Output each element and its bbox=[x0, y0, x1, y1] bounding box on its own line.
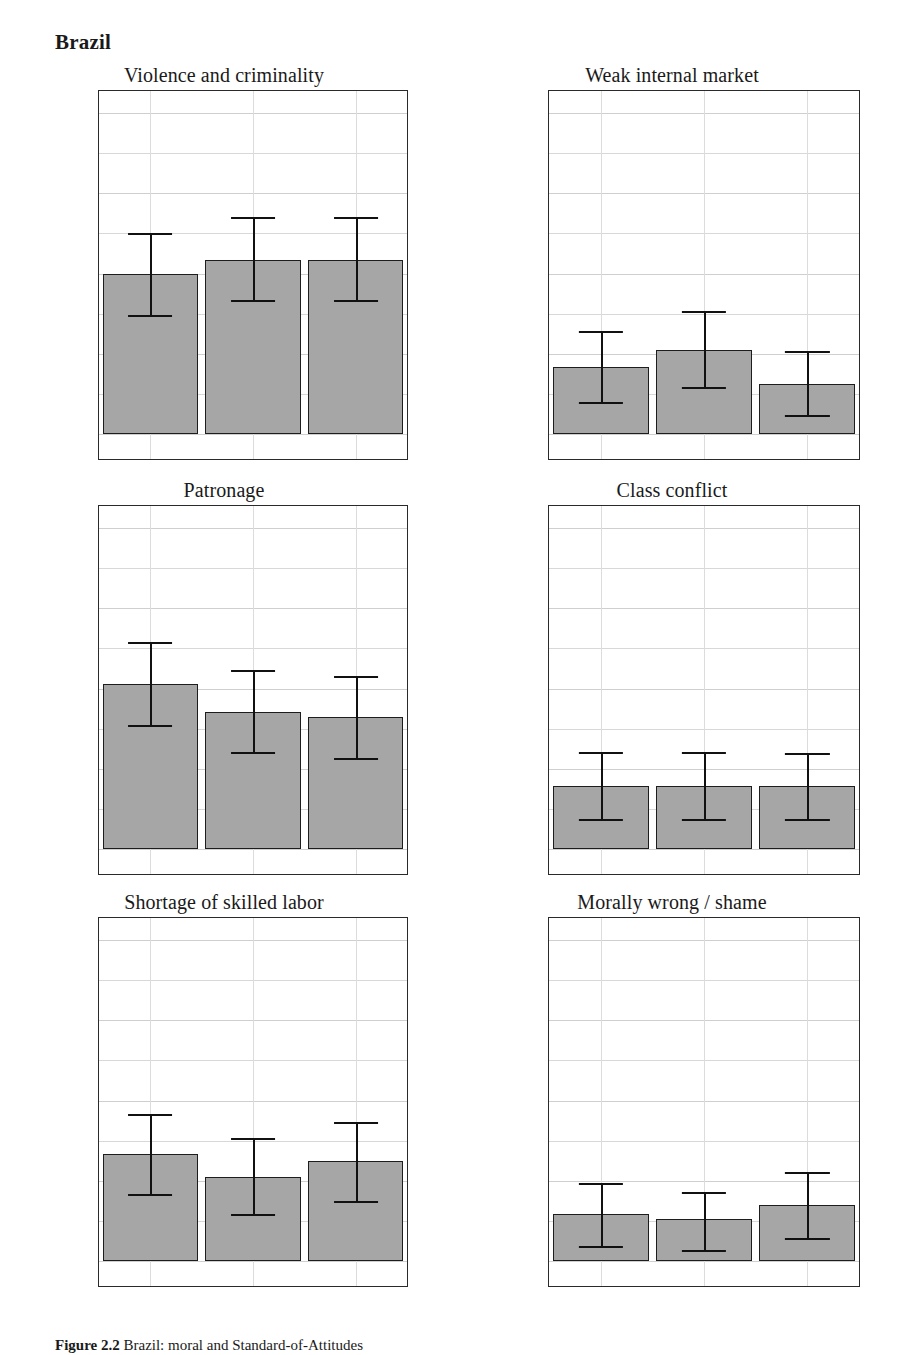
panel-grid: Violence and criminalityBusinessCivil Se… bbox=[0, 62, 897, 1301]
plot-area: BusinessCivil ServantsPoliticians100%75%… bbox=[98, 505, 408, 875]
error-bar-cap-lower bbox=[682, 1250, 726, 1252]
error-bar-cap-upper bbox=[128, 1114, 172, 1116]
error-bar-cap-upper bbox=[785, 351, 829, 353]
error-bar-cap-lower bbox=[128, 725, 172, 727]
chart-panel: Class conflictBusinessCivil ServantsPoli… bbox=[448, 477, 896, 889]
error-bar-cap-upper bbox=[785, 753, 829, 755]
error-bar-line bbox=[150, 642, 152, 725]
error-bar-line bbox=[150, 1114, 152, 1194]
error-bar-cap-upper bbox=[682, 1192, 726, 1194]
error-bar-line bbox=[356, 217, 358, 300]
error-bar-cap-lower bbox=[231, 300, 275, 302]
chart-panel: Violence and criminalityBusinessCivil Se… bbox=[0, 62, 448, 477]
error-bar-line bbox=[807, 1172, 809, 1237]
error-bar-cap-lower bbox=[334, 1201, 378, 1203]
error-bar-cap-lower bbox=[682, 819, 726, 821]
panel-title: Morally wrong / shame bbox=[448, 889, 896, 915]
error-bar-line bbox=[150, 233, 152, 315]
error-bar-line bbox=[253, 1138, 255, 1213]
error-bar-cap-upper bbox=[334, 1122, 378, 1124]
error-bar-cap-lower bbox=[682, 387, 726, 389]
error-bar-cap-upper bbox=[682, 311, 726, 313]
error-bar-cap-upper bbox=[579, 1183, 623, 1185]
error-bar-cap-lower bbox=[785, 415, 829, 417]
error-bar-line bbox=[601, 752, 603, 819]
chart-panel: Weak internal marketBusinessCivil Servan… bbox=[448, 62, 896, 477]
plot-inner: BusinessCivil ServantsPoliticians100%75%… bbox=[549, 91, 859, 459]
plot-area: BusinessCivil ServantsPoliticians100%75%… bbox=[548, 505, 860, 875]
panel-title: Violence and criminality bbox=[0, 62, 448, 88]
plot-area: BusinessCivil ServantsPoliticians100%75%… bbox=[548, 917, 860, 1287]
error-bar-cap-upper bbox=[231, 217, 275, 219]
plot-inner: BusinessCivil ServantsPoliticians100%75%… bbox=[99, 506, 407, 874]
chart-panel: Morally wrong / shameBusinessCivil Serva… bbox=[448, 889, 896, 1301]
error-bar-line bbox=[253, 670, 255, 752]
error-bar-line bbox=[356, 676, 358, 757]
error-bar-line bbox=[601, 331, 603, 402]
error-bar-cap-upper bbox=[128, 642, 172, 644]
error-bar-cap-upper bbox=[231, 670, 275, 672]
error-bar-cap-lower bbox=[785, 1238, 829, 1240]
figure-caption: Figure 2.2 Brazil: moral and Standard-of… bbox=[55, 1336, 855, 1355]
panel-title: Patronage bbox=[0, 477, 448, 503]
error-bar-line bbox=[807, 753, 809, 819]
error-bar-cap-lower bbox=[579, 1246, 623, 1248]
error-bar-cap-lower bbox=[231, 752, 275, 754]
error-bar-cap-upper bbox=[579, 331, 623, 333]
chart-panel: Shortage of skilled laborBusinessCivil S… bbox=[0, 889, 448, 1301]
error-bar-cap-lower bbox=[334, 758, 378, 760]
error-bar-cap-upper bbox=[579, 752, 623, 754]
plot-area: BusinessCivil ServantsPoliticians100%75%… bbox=[98, 90, 408, 460]
error-bar-line bbox=[253, 217, 255, 300]
error-bar-cap-lower bbox=[785, 819, 829, 821]
error-bar-line bbox=[356, 1122, 358, 1201]
figure-caption-text: Brazil: moral and Standard-of-Attitudes bbox=[123, 1337, 363, 1353]
error-bar-cap-upper bbox=[785, 1172, 829, 1174]
error-bar-line bbox=[704, 311, 706, 387]
error-bar-line bbox=[704, 1192, 706, 1250]
figure-caption-label: Figure 2.2 bbox=[55, 1337, 120, 1353]
error-bar-cap-lower bbox=[128, 315, 172, 317]
error-bar-cap-lower bbox=[579, 402, 623, 404]
panel-title: Shortage of skilled labor bbox=[0, 889, 448, 915]
error-bar-cap-upper bbox=[128, 233, 172, 235]
panel-title: Weak internal market bbox=[448, 62, 896, 88]
error-bar-cap-upper bbox=[682, 752, 726, 754]
plot-inner: BusinessCivil ServantsPoliticians100%75%… bbox=[549, 918, 859, 1286]
error-bar-cap-upper bbox=[231, 1138, 275, 1140]
error-bar-cap-lower bbox=[579, 819, 623, 821]
error-bar-cap-lower bbox=[231, 1214, 275, 1216]
chart-panel: PatronageBusinessCivil ServantsPoliticia… bbox=[0, 477, 448, 889]
error-bar-cap-upper bbox=[334, 217, 378, 219]
plot-inner: BusinessCivil ServantsPoliticians100%75%… bbox=[99, 918, 407, 1286]
page-title: Brazil bbox=[55, 30, 111, 55]
error-bar-line bbox=[704, 752, 706, 819]
plot-area: BusinessCivil ServantsPoliticians100%75%… bbox=[98, 917, 408, 1287]
panel-title: Class conflict bbox=[448, 477, 896, 503]
error-bar-line bbox=[601, 1183, 603, 1246]
plot-inner: BusinessCivil ServantsPoliticians100%75%… bbox=[549, 506, 859, 874]
error-bar-cap-upper bbox=[334, 676, 378, 678]
plot-area: BusinessCivil ServantsPoliticians100%75%… bbox=[548, 90, 860, 460]
error-bar-line bbox=[807, 351, 809, 415]
plot-inner: BusinessCivil ServantsPoliticians100%75%… bbox=[99, 91, 407, 459]
error-bar-cap-lower bbox=[334, 300, 378, 302]
error-bar-cap-lower bbox=[128, 1194, 172, 1196]
